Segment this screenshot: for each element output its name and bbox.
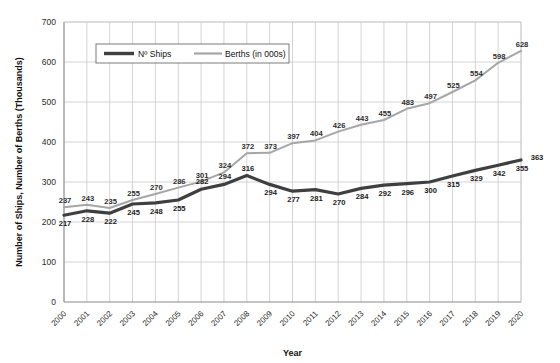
- data-label-ships: 294: [264, 188, 277, 197]
- data-label-ships: 281: [310, 194, 323, 203]
- data-label-berths: 525: [447, 81, 460, 90]
- x-tick-label: 2016: [415, 309, 434, 328]
- x-tick-label: 2018: [461, 309, 480, 328]
- y-tick-label: 200: [42, 217, 56, 227]
- data-label-ships: 217: [59, 219, 72, 228]
- data-label-ships: 248: [150, 207, 163, 216]
- data-label-berths: 237: [59, 196, 72, 205]
- data-label-berths: 235: [104, 197, 117, 206]
- data-label-berths: 255: [127, 189, 140, 198]
- y-tick-label: 300: [42, 177, 56, 187]
- x-tick-label: 2011: [301, 309, 320, 328]
- x-tick-label: 2010: [278, 309, 297, 328]
- data-label-berths: 404: [310, 129, 323, 138]
- y-tick-label: 500: [42, 97, 56, 107]
- data-label-berths: 397: [287, 132, 300, 141]
- data-label-ships: 255: [173, 204, 186, 213]
- y-tick-label: 0: [51, 297, 56, 307]
- x-tick-label: 2009: [255, 309, 274, 328]
- x-axis-title: Year: [283, 348, 303, 358]
- data-label-ships: 300: [424, 186, 437, 195]
- data-label-ships: 294: [219, 172, 232, 181]
- data-label-berths: 598: [493, 52, 506, 61]
- data-label-berths: 443: [356, 114, 369, 123]
- data-label-ships: 355: [516, 164, 529, 173]
- data-label-ships: 222: [104, 217, 117, 226]
- x-tick-label: 2007: [209, 309, 228, 328]
- x-tick-label: 2012: [324, 309, 343, 328]
- data-label-ships: 316: [241, 164, 254, 173]
- data-label-berths: 483: [401, 98, 414, 107]
- data-label-ships: 292: [379, 189, 392, 198]
- x-tick-label: 2000: [49, 309, 68, 328]
- y-tick-label: 400: [42, 137, 56, 147]
- x-tick-label: 2004: [141, 309, 160, 328]
- data-label-berths: 270: [150, 183, 163, 192]
- data-label-berths: 324: [219, 161, 232, 170]
- y-axis-title: Number of Ships, Number of Berths (Thous…: [14, 57, 24, 267]
- data-label-ships: 342: [493, 169, 506, 178]
- data-label-berths: 628: [516, 40, 529, 49]
- data-label-ships: 245: [127, 208, 140, 217]
- data-label-ships: 277: [287, 195, 300, 204]
- data-label-ships: 270: [333, 198, 346, 207]
- chart-container: 0100200300400500600700200020012002200320…: [0, 0, 560, 363]
- x-tick-label: 2019: [484, 309, 503, 328]
- data-label-ships: 296: [401, 188, 414, 197]
- x-tick-label: 2015: [392, 309, 411, 328]
- data-label-berths: 372: [241, 142, 254, 151]
- x-tick-label: 2020: [506, 309, 525, 328]
- data-label-ships: 282: [196, 177, 209, 186]
- legend-label-ships: Nº Ships: [138, 49, 171, 59]
- x-tick-label: 2013: [347, 309, 366, 328]
- data-label-ships: 284: [356, 192, 369, 201]
- x-tick-label: 2014: [369, 309, 388, 328]
- data-label-ships: 228: [82, 215, 95, 224]
- x-tick-label: 2005: [164, 309, 183, 328]
- y-tick-label: 700: [42, 17, 56, 27]
- data-label-berths: 373: [264, 142, 277, 151]
- data-label-berths: 554: [470, 69, 483, 78]
- data-label-berths: 243: [82, 194, 95, 203]
- data-label-berths: 455: [379, 109, 392, 118]
- data-label-berths: 426: [333, 121, 346, 130]
- x-tick-label: 2003: [118, 309, 137, 328]
- data-label-berths: 497: [424, 92, 437, 101]
- data-label-berths: 286: [173, 177, 186, 186]
- x-tick-label: 2006: [187, 309, 206, 328]
- x-tick-label: 2017: [438, 309, 457, 328]
- x-tick-label: 2002: [95, 309, 114, 328]
- line-chart: 0100200300400500600700200020012002200320…: [0, 0, 560, 363]
- y-tick-label: 100: [42, 257, 56, 267]
- x-tick-label: 2008: [232, 309, 251, 328]
- x-tick-label: 2001: [72, 309, 91, 328]
- data-label-ships: 315: [447, 180, 460, 189]
- data-label-ships: 329: [470, 174, 483, 183]
- legend-label-berths: Berths (in 000s): [225, 49, 286, 59]
- data-label-ships-final: 363: [531, 153, 544, 162]
- y-tick-label: 600: [42, 57, 56, 67]
